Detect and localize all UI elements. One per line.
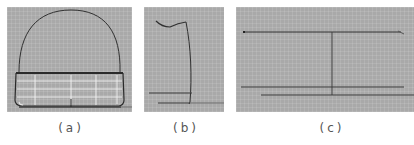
- top-view-drawing: [236, 7, 414, 112]
- caption-a: (a): [58, 121, 84, 135]
- panel-a-front-view: [7, 7, 132, 112]
- panel-b-side-view: [144, 7, 224, 112]
- caption-b: (b): [173, 121, 199, 135]
- caption-c: (c): [320, 121, 345, 135]
- panel-c-top-view: [236, 7, 414, 112]
- side-view-drawing: [144, 7, 224, 112]
- front-view-drawing: [7, 7, 132, 112]
